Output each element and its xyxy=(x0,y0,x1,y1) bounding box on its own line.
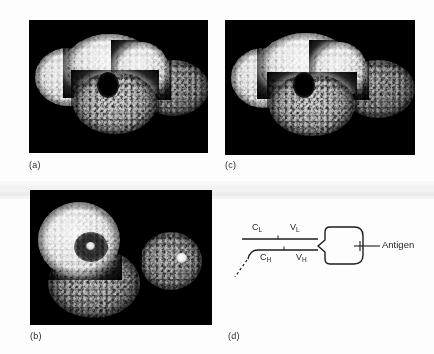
antigen-label: Antigen xyxy=(382,239,414,250)
panel-b-image xyxy=(30,190,212,325)
panel-a-image xyxy=(29,20,208,153)
molecule-highlight-spot xyxy=(86,242,95,250)
panel-c-label: (c) xyxy=(225,160,236,170)
panel-b-label: (b) xyxy=(30,331,42,341)
panel-d-label: (d) xyxy=(228,331,240,341)
panel-c-image xyxy=(225,20,415,155)
molecule-highlight-spot xyxy=(176,253,187,263)
light-chain-variable-label: VL xyxy=(290,222,300,232)
molecule-hinge-cleft xyxy=(97,72,119,98)
heavy-chain-constant-label: CH xyxy=(260,252,271,262)
molecule-fc-blob xyxy=(140,232,202,290)
scan-artifact-band xyxy=(0,181,434,186)
panel-d-diagram: CL VL CH VH Antigen xyxy=(230,205,430,305)
panel-a-label: (a) xyxy=(29,160,41,170)
heavy-chain-variable-label: VH xyxy=(296,252,307,262)
hinge-dashed-line xyxy=(235,260,247,277)
molecule-hinge-cleft xyxy=(293,72,315,98)
heavy-chain-line xyxy=(248,250,318,259)
light-chain-constant-label: CL xyxy=(252,222,262,232)
